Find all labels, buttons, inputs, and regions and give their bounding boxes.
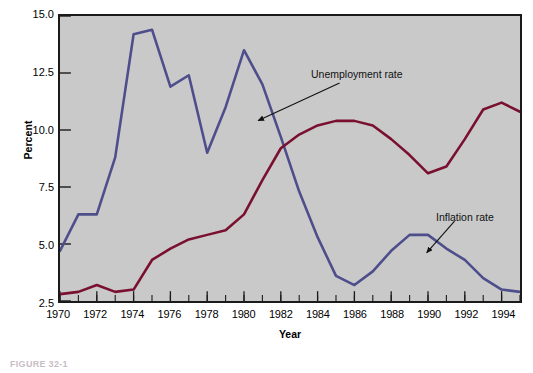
y-tick-label: 10.0 [16, 124, 54, 136]
figure-caption: FIGURE 32-1 [10, 359, 68, 369]
plot-area [58, 14, 522, 303]
y-axis-major-ticks [60, 16, 71, 301]
y-tick-label: 15.0 [16, 8, 54, 20]
x-tick-label: 1994 [481, 308, 525, 320]
chart-canvas [60, 16, 520, 301]
unemployment-rate-label: Unemployment rate [311, 68, 403, 80]
data-series-group [60, 30, 520, 294]
x-axis-title: Year [58, 328, 522, 340]
unemployment-rate-arrow [258, 83, 339, 120]
y-tick-label: 7.5 [16, 181, 54, 193]
inflation-rate-label: Inflation rate [436, 211, 494, 223]
x-axis-minor-ticks [60, 295, 520, 301]
x-axis-major-ticks [60, 291, 502, 301]
figure-container: Percent 2.55.07.510.012.515.0 Unemployme… [0, 0, 533, 373]
y-axis-tick-labels: 2.55.07.510.012.515.0 [16, 14, 54, 303]
y-tick-label: 5.0 [16, 239, 54, 251]
annotation-arrows [258, 83, 454, 253]
y-tick-label: 12.5 [16, 66, 54, 78]
x-axis-tick-labels: 1970197219741976197819801982198419861988… [58, 308, 522, 326]
